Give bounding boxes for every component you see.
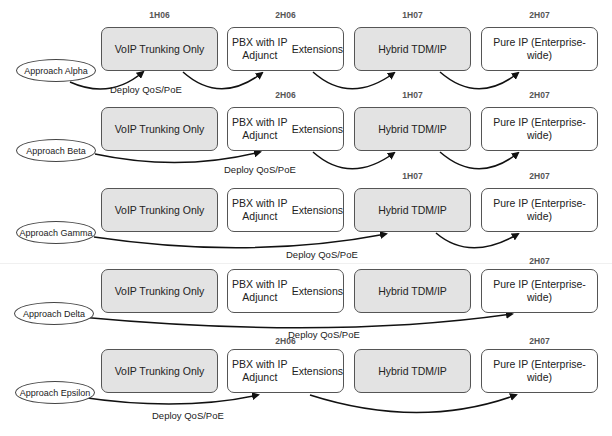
approach-label-epsilon: Approach Epsilon bbox=[15, 381, 95, 404]
stage-date: 2H07 bbox=[481, 90, 598, 100]
approach-row-epsilon: 2H06 2H07 VoIP Trunking Only PBX with IP… bbox=[0, 0, 612, 80]
approach-label-beta: Approach Beta bbox=[16, 139, 96, 162]
stage-label-line: PBX with IP Adjunct bbox=[228, 116, 292, 142]
stage-date: 2H07 bbox=[481, 171, 598, 181]
stage-pure-ip: Pure IP (Enterprise-wide) bbox=[481, 107, 598, 151]
stage-label-line: Extensions bbox=[292, 204, 343, 217]
stage-label-line: PBX with IP Adjunct bbox=[228, 278, 292, 304]
action-label: Deploy QoS/PoE bbox=[152, 410, 224, 421]
stage-label-line: PBX with IP Adjunct bbox=[228, 358, 292, 384]
stage-voip-trunking: VoIP Trunking Only bbox=[101, 349, 218, 393]
stage-label-line: Extensions bbox=[292, 365, 343, 378]
approach-label-delta: Approach Delta bbox=[14, 302, 94, 325]
stage-date: 2H06 bbox=[227, 90, 344, 100]
stage-date: 2H07 bbox=[481, 336, 598, 346]
stage-date: 1H07 bbox=[354, 171, 471, 181]
stage-label-line: Extensions bbox=[292, 123, 343, 136]
stage-pure-ip: Pure IP (Enterprise-wide) bbox=[481, 188, 598, 232]
arrow-epsilon-to-pbx bbox=[80, 395, 258, 404]
action-label: Deploy QoS/PoE bbox=[224, 164, 296, 175]
stage-pbx-ip-adjunct: PBX with IP AdjunctExtensions bbox=[227, 107, 344, 151]
arrow-delta-to-pureip bbox=[80, 314, 512, 328]
arrow-gamma-hybrid-to-pureip bbox=[436, 233, 518, 248]
arrow-epsilon-pbx-to-pureip bbox=[310, 395, 516, 413]
arrow-gamma-to-hybrid bbox=[94, 234, 386, 248]
stage-label-line: Extensions bbox=[292, 285, 343, 298]
stage-voip-trunking: VoIP Trunking Only bbox=[101, 188, 218, 232]
stage-pure-ip: Pure IP (Enterprise-wide) bbox=[481, 269, 598, 313]
action-label: Deploy QoS/PoE bbox=[286, 249, 358, 260]
stage-voip-trunking: VoIP Trunking Only bbox=[101, 107, 218, 151]
stage-pbx-ip-adjunct: PBX with IP AdjunctExtensions bbox=[227, 349, 344, 393]
stage-date: 1H07 bbox=[354, 90, 471, 100]
migration-approaches-diagram: 1H06 2H06 1H07 2H07 VoIP Trunking Only P… bbox=[0, 0, 612, 436]
stage-hybrid-tdm-ip: Hybrid TDM/IP bbox=[354, 188, 471, 232]
stage-hybrid-tdm-ip: Hybrid TDM/IP bbox=[354, 107, 471, 151]
arrow-beta-hybrid-to-pureip bbox=[440, 152, 518, 169]
stage-pure-ip: Pure IP (Enterprise-wide) bbox=[481, 349, 598, 393]
stage-label-line: PBX with IP Adjunct bbox=[228, 197, 292, 223]
stage-date: 2H06 bbox=[227, 336, 344, 346]
approach-label-gamma: Approach Gamma bbox=[16, 221, 96, 244]
stage-pbx-ip-adjunct: PBX with IP AdjunctExtensions bbox=[227, 269, 344, 313]
stage-hybrid-tdm-ip: Hybrid TDM/IP bbox=[354, 349, 471, 393]
arrow-beta-pbx-to-hybrid bbox=[313, 152, 394, 169]
stage-hybrid-tdm-ip: Hybrid TDM/IP bbox=[354, 269, 471, 313]
stage-date: 2H07 bbox=[481, 256, 598, 266]
stage-pbx-ip-adjunct: PBX with IP AdjunctExtensions bbox=[227, 188, 344, 232]
stage-voip-trunking: VoIP Trunking Only bbox=[101, 269, 218, 313]
action-label: Deploy QoS/PoE bbox=[110, 84, 182, 95]
arrow-beta-to-pbx bbox=[95, 152, 260, 163]
